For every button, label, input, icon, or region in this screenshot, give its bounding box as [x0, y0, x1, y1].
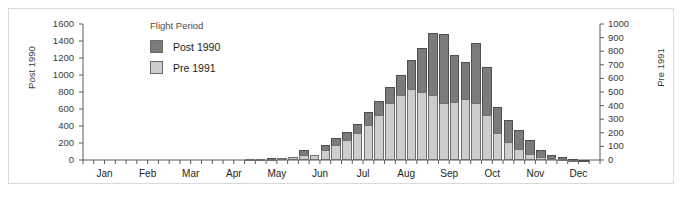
bar-pre-1991 — [536, 157, 546, 160]
bar-pre-1991 — [482, 115, 492, 160]
y-tick-left: 0 — [44, 154, 74, 165]
x-tick-label-jan: Jan — [83, 168, 127, 179]
bar-pre-1991 — [407, 89, 417, 160]
y-tick-left: 800 — [44, 86, 74, 97]
y-tick-right: 1000 — [608, 18, 642, 29]
y-tick-left: 1400 — [44, 35, 74, 46]
y-tick-right: 0 — [608, 154, 642, 165]
bar-pre-1991 — [267, 159, 277, 161]
y-tick-right: 100 — [608, 140, 642, 151]
x-tick-label-dec: Dec — [556, 168, 600, 179]
bar-pre-1991 — [299, 155, 309, 160]
bar-pre-1991 — [525, 154, 535, 160]
bar-pre-1991 — [396, 95, 406, 160]
x-tick-label-jul: Jul — [341, 168, 385, 179]
y-tick-left: 1200 — [44, 52, 74, 63]
bar-pre-1991 — [417, 92, 427, 160]
chart-plot-area: Post 1990 Pre 1991 020040060080010001200… — [0, 0, 690, 200]
y-tick-left: 200 — [44, 137, 74, 148]
y-tick-right: 900 — [608, 32, 642, 43]
x-tick-label-apr: Apr — [212, 168, 256, 179]
y-tick-left: 1000 — [44, 69, 74, 80]
x-tick-label-aug: Aug — [384, 168, 428, 179]
bar-pre-1991 — [385, 103, 395, 160]
legend-title: Flight Period — [150, 20, 220, 31]
legend-item-1[interactable]: Pre 1991 — [150, 61, 220, 74]
x-tick-label-oct: Oct — [470, 168, 514, 179]
bar-pre-1991 — [288, 157, 298, 160]
chart-legend: Flight Period Post 1990Pre 1991 — [150, 20, 220, 82]
legend-swatch-icon — [150, 61, 163, 74]
bar-pre-1991 — [374, 115, 384, 160]
bar-pre-1991 — [504, 142, 514, 160]
bar-pre-1991 — [428, 95, 438, 160]
bar-pre-1991 — [353, 133, 363, 160]
bar-pre-1991 — [256, 159, 266, 161]
y-tick-left: 1600 — [44, 18, 74, 29]
legend-item-label: Pre 1991 — [173, 62, 216, 74]
legend-swatch-icon — [150, 40, 163, 53]
bar-pre-1991 — [331, 145, 341, 160]
bar-pre-1991 — [547, 158, 557, 160]
x-tick-label-nov: Nov — [513, 168, 557, 179]
bar-pre-1991 — [461, 99, 471, 160]
y-tick-right: 200 — [608, 127, 642, 138]
x-tick-label-may: May — [255, 168, 299, 179]
bar-pre-1991 — [514, 149, 524, 160]
y-tick-right: 800 — [608, 45, 642, 56]
bar-pre-1991 — [321, 150, 331, 160]
bar-pre-1991 — [568, 160, 578, 162]
bar-pre-1991 — [277, 158, 287, 160]
legend-item-label: Post 1990 — [173, 41, 220, 53]
y-tick-right: 400 — [608, 100, 642, 111]
bar-pre-1991 — [364, 125, 374, 160]
y-tick-right: 700 — [608, 59, 642, 70]
y-tick-right: 600 — [608, 72, 642, 83]
y-tick-right: 300 — [608, 113, 642, 124]
y-tick-left: 400 — [44, 120, 74, 131]
bar-pre-1991 — [493, 133, 503, 160]
x-tick-label-mar: Mar — [169, 168, 213, 179]
x-tick-label-jun: Jun — [298, 168, 342, 179]
bar-pre-1991 — [342, 140, 352, 160]
bar-pre-1991 — [471, 103, 481, 160]
legend-item-0[interactable]: Post 1990 — [150, 40, 220, 53]
bar-post-1990 — [579, 160, 589, 162]
bar-pre-1991 — [450, 102, 460, 160]
y-tick-right: 500 — [608, 86, 642, 97]
x-tick-label-sep: Sep — [427, 168, 471, 179]
x-tick-label-feb: Feb — [126, 168, 170, 179]
bar-pre-1991 — [558, 159, 568, 161]
bar-pre-1991 — [439, 103, 449, 160]
y-tick-left: 600 — [44, 103, 74, 114]
bar-pre-1991 — [245, 159, 255, 161]
bar-pre-1991 — [310, 155, 320, 160]
